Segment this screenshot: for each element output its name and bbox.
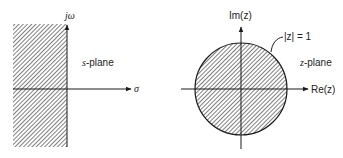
stability-regions-figure: jω σ s-plane Im(z) Re(z) |z| = 1 z-plane	[0, 0, 343, 158]
sigma-axis-label: σ	[134, 83, 140, 94]
jw-axis-label: jω	[63, 10, 75, 21]
z-plane-suffix: -plane	[304, 57, 332, 68]
s-plane-diagram: jω σ s-plane	[13, 10, 140, 147]
unit-circle-label: |z| = 1	[284, 31, 312, 42]
im-axis-label: Im(z)	[229, 10, 252, 21]
z-plane-label: z-plane	[299, 57, 332, 68]
s-plane-label: s-plane	[82, 57, 114, 68]
s-plane-suffix: -plane	[86, 57, 114, 68]
re-axis-label: Re(z)	[311, 84, 335, 95]
z-plane-diagram: Im(z) Re(z) |z| = 1 z-plane	[181, 10, 335, 149]
left-half-plane-shading	[13, 24, 67, 147]
circle-label-leader	[271, 37, 283, 52]
